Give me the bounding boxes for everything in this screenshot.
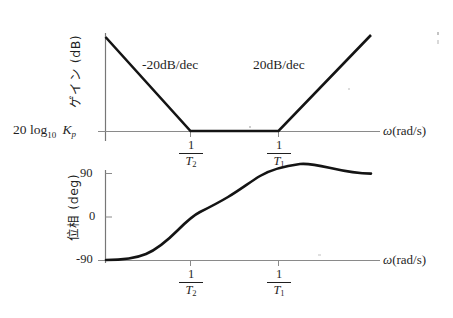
gain-xtick-2-denominator: T1 bbox=[267, 155, 291, 169]
scan-artifact-1 bbox=[249, 126, 251, 128]
phase-xtick-label-1: 1 T2 bbox=[179, 268, 203, 298]
gain-xtick-2-numerator: 1 bbox=[267, 139, 291, 152]
gain-y-axis-title: ゲイン (dB) bbox=[65, 22, 84, 122]
gain-xtick-label-2: 1 T1 bbox=[267, 139, 291, 169]
scan-artifact-5 bbox=[318, 254, 321, 256]
gain-asymptote-curve bbox=[106, 35, 372, 131]
phase-ytick-label-neg90: -90 bbox=[76, 253, 93, 266]
gain-level-sub: 10 bbox=[47, 130, 56, 140]
gain-x-axis-title: ω(rad/s) bbox=[383, 124, 426, 137]
slope-label-right: 20dB/dec bbox=[253, 58, 305, 72]
phase-xtick-1-den-sub: 2 bbox=[192, 288, 196, 298]
phase-ytick-label-90: 90 bbox=[80, 167, 93, 180]
gain-x-axis-units: (rad/s) bbox=[392, 123, 426, 138]
gain-level-prefix: 20 log bbox=[13, 122, 47, 137]
gain-level-label: 20 log10 Kp bbox=[13, 123, 76, 140]
gain-plot-group bbox=[98, 33, 380, 141]
phase-x-axis-units: (rad/s) bbox=[392, 252, 426, 267]
phase-x-axis-title: ω(rad/s) bbox=[383, 253, 426, 266]
scan-artifact-4 bbox=[437, 40, 439, 44]
phase-xtick-2-den-sub: 1 bbox=[280, 288, 284, 298]
phase-xtick-2-denominator: T1 bbox=[267, 284, 291, 298]
omega-symbol-phase: ω bbox=[383, 252, 392, 267]
gain-level-var-sub: p bbox=[72, 129, 77, 139]
gain-xtick-1-denominator: T2 bbox=[179, 155, 203, 169]
omega-symbol-gain: ω bbox=[383, 123, 392, 138]
phase-y-axis-title: 位相 (deg) bbox=[63, 163, 82, 253]
slope-label-left: -20dB/dec bbox=[142, 58, 198, 72]
phase-xtick-1-denominator: T2 bbox=[179, 284, 203, 298]
phase-curve bbox=[106, 164, 371, 260]
phase-xtick-label-2: 1 T1 bbox=[267, 268, 291, 298]
scan-artifact-3 bbox=[437, 32, 439, 35]
gain-level-var: Kp bbox=[63, 122, 77, 137]
gain-level-var-letter: K bbox=[63, 122, 72, 137]
phase-plot-group bbox=[98, 159, 380, 266]
gain-xtick-1-den-sub: 2 bbox=[192, 159, 196, 169]
gain-xtick-label-1: 1 T2 bbox=[179, 139, 203, 169]
gain-xtick-2-den-sub: 1 bbox=[280, 159, 284, 169]
phase-xtick-2-numerator: 1 bbox=[267, 268, 291, 281]
gain-xtick-1-numerator: 1 bbox=[179, 139, 203, 152]
phase-xtick-1-numerator: 1 bbox=[179, 268, 203, 281]
bode-diagram-figure: ゲイン (dB) 20 log10 Kp -20dB/dec 20dB/dec … bbox=[0, 0, 453, 318]
scan-artifact-2 bbox=[348, 88, 350, 90]
phase-ytick-label-0: 0 bbox=[89, 210, 95, 223]
